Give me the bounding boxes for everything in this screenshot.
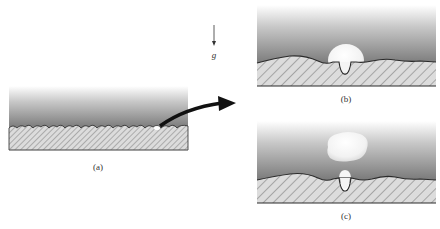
panel-b: (b) xyxy=(257,5,436,104)
panel-a-label: (a) xyxy=(93,162,103,172)
panel-a: (a) xyxy=(9,86,188,172)
panel-c: (c) xyxy=(257,121,436,221)
gravity-indicator: g xyxy=(212,25,217,60)
departing-bubble xyxy=(327,132,367,162)
rough-surface xyxy=(9,125,188,150)
gravity-label: g xyxy=(212,50,217,60)
boiling-nucleation-diagram: (a) g (b) (c) xyxy=(0,0,440,229)
vapor-nucleus xyxy=(154,126,160,130)
panel-c-label: (c) xyxy=(341,211,351,221)
panel-b-label: (b) xyxy=(341,94,352,104)
